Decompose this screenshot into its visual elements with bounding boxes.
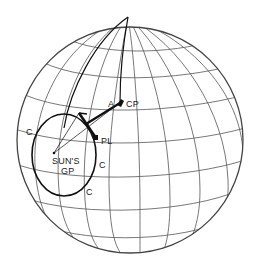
globe-outline <box>17 27 243 253</box>
intercept-arrow <box>79 113 96 138</box>
label-suns: SUN'S <box>52 157 80 166</box>
azimuth-line <box>86 103 120 124</box>
label-cp: CP <box>126 100 139 109</box>
pl-marker <box>93 135 98 140</box>
globe-diagram: A CP PL SUN'S GP C C C <box>0 0 260 272</box>
label-c-bottom: C <box>86 188 93 197</box>
arrow-head <box>79 113 87 114</box>
gp-to-arrow-line <box>54 113 79 153</box>
label-pl: PL <box>101 137 112 146</box>
globe-svg <box>0 0 260 272</box>
label-gp: GP <box>61 167 74 176</box>
sun-gp-point <box>53 152 56 155</box>
label-a: A <box>108 100 114 109</box>
observer-meridian <box>120 17 128 103</box>
label-c-left: C <box>26 128 33 137</box>
label-c-right: C <box>99 161 106 170</box>
